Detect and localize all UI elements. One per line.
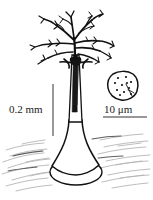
horizontal-scale-label: 10 μm (104, 103, 132, 115)
substrate-hatching-left (2, 140, 52, 191)
vertical-scale-label: 0.2 mm (9, 103, 43, 115)
cell-outline (108, 71, 138, 100)
scientific-figure: 0.2 mm 10 μm (0, 0, 153, 200)
substrate-hatching-right (98, 134, 150, 188)
holdfast-bell (52, 120, 99, 175)
figure-artwork (0, 0, 153, 200)
cell-detail-inset (108, 71, 138, 100)
